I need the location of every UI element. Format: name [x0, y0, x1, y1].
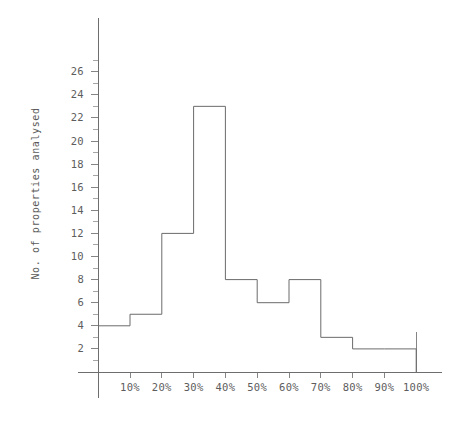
x-tick-label: 70% — [311, 381, 331, 393]
plot-area: 2468101214161820222426 10%20%30%40%50%60… — [0, 0, 462, 428]
x-tick-label: 100% — [403, 381, 430, 393]
y-tick-label: 2 — [77, 342, 84, 354]
y-tick-label: 16 — [71, 181, 84, 193]
x-tick-label: 50% — [247, 381, 267, 393]
x-tick-label: 20% — [152, 381, 172, 393]
x-tick-label: 60% — [279, 381, 299, 393]
y-axis-ticks — [91, 60, 98, 360]
x-tick-label: 90% — [374, 381, 394, 393]
x-axis-ticks — [130, 332, 416, 378]
x-axis-tick-labels: 10%20%30%40%50%60%70%80%90%100% — [120, 381, 430, 393]
x-tick-label: 40% — [215, 381, 235, 393]
y-tick-label: 8 — [77, 273, 84, 285]
y-tick-label: 14 — [71, 204, 84, 216]
x-tick-label: 80% — [343, 381, 363, 393]
x-tick-label: 10% — [120, 381, 140, 393]
y-tick-label: 4 — [77, 319, 84, 331]
histogram-chart: No. of properties analysed 2468101214161… — [0, 0, 462, 428]
y-tick-label: 22 — [71, 111, 84, 123]
y-tick-label: 26 — [71, 65, 84, 77]
y-tick-label: 20 — [71, 135, 84, 147]
y-tick-label: 6 — [77, 296, 84, 308]
x-tick-label: 30% — [184, 381, 204, 393]
y-tick-label: 24 — [71, 88, 84, 100]
y-tick-label: 18 — [71, 158, 84, 170]
histogram-step-outline — [98, 106, 416, 372]
y-axis-tick-labels: 2468101214161820222426 — [71, 65, 84, 354]
y-tick-label: 12 — [71, 227, 84, 239]
y-tick-label: 10 — [71, 250, 84, 262]
